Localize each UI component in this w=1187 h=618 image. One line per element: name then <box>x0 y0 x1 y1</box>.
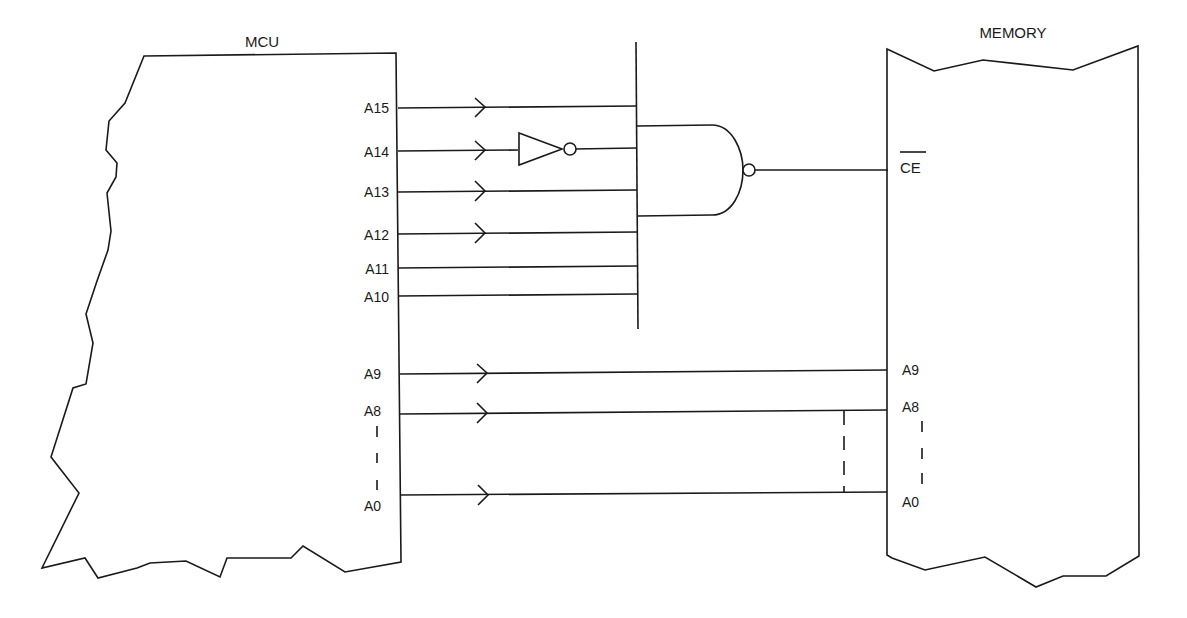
mcu-pin-a15: A15 <box>364 100 389 116</box>
mcu-pin-a14: A14 <box>364 144 389 160</box>
memory-block: MEMORY CE A9 A8 A0 <box>887 24 1139 587</box>
line-a13 <box>398 190 637 192</box>
schematic-canvas: MCU A15 A14 A13 A12 A11 A10 A9 A8 A0 <box>0 0 1187 618</box>
line-a8 <box>400 410 887 414</box>
mcu-pin-a9: A9 <box>364 366 381 382</box>
inverter-bubble <box>564 143 576 155</box>
memory-pin-a0: A0 <box>902 494 919 510</box>
decoder-bus-bar <box>636 42 638 329</box>
line-a10 <box>398 294 637 296</box>
nand-body <box>637 125 743 216</box>
line-a0 <box>400 492 887 495</box>
mcu-pin-a12: A12 <box>364 227 389 243</box>
memory-pin-a8: A8 <box>902 399 919 415</box>
line-a11 <box>398 266 637 268</box>
memory-pin-ce: CE <box>900 159 921 176</box>
mcu-title: MCU <box>245 33 279 50</box>
inverter-gate <box>519 133 576 165</box>
memory-outline <box>887 46 1139 587</box>
line-a14-to-inverter <box>398 150 518 151</box>
mcu-block: MCU A15 A14 A13 A12 A11 A10 A9 A8 A0 <box>42 33 401 578</box>
line-a14-inverted <box>574 148 637 149</box>
mcu-pin-a0: A0 <box>364 498 381 514</box>
mcu-pin-a11: A11 <box>365 261 389 277</box>
line-a9 <box>400 370 887 374</box>
mcu-pin-a13: A13 <box>364 184 389 200</box>
line-a15 <box>398 106 637 108</box>
mcu-pin-a8: A8 <box>364 403 381 419</box>
line-a12 <box>398 232 637 234</box>
nand-gate <box>637 125 888 216</box>
nand-bubble <box>743 164 755 176</box>
decoder-address-lines <box>398 98 637 296</box>
memory-title: MEMORY <box>979 24 1046 41</box>
mcu-outline <box>42 53 401 578</box>
direct-address-lines <box>400 364 887 505</box>
memory-pin-a9: A9 <box>902 362 919 378</box>
mcu-pin-a10: A10 <box>364 289 389 305</box>
inverter-triangle <box>519 133 562 165</box>
